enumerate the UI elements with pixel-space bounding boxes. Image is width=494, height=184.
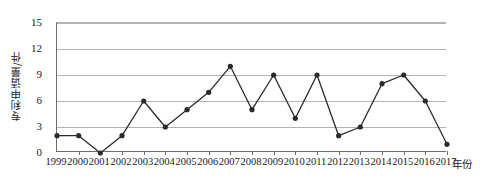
data-point [444, 142, 449, 147]
data-point [163, 124, 168, 129]
y-axis-tick-label: 15 [2, 16, 42, 28]
data-point [401, 72, 406, 77]
data-point [76, 133, 81, 138]
data-point [336, 133, 341, 138]
data-point [249, 107, 254, 112]
data-point [184, 107, 189, 112]
data-point [358, 124, 363, 129]
data-series-line [57, 23, 447, 153]
line-chart: 专利申请量/件 03691215 19992000200120022003200… [0, 0, 494, 184]
y-axis-tick-label: 3 [2, 120, 42, 132]
x-axis-title: 年份 [452, 156, 472, 171]
data-point [54, 133, 59, 138]
data-point [314, 72, 319, 77]
data-point [206, 90, 211, 95]
data-point [423, 98, 428, 103]
data-point [119, 133, 124, 138]
data-point [293, 116, 298, 121]
y-axis-tick-label: 9 [2, 68, 42, 80]
data-point [271, 72, 276, 77]
data-point [379, 81, 384, 86]
x-axis-tick [447, 151, 448, 155]
y-axis-tick-label: 12 [2, 42, 42, 54]
data-point [141, 98, 146, 103]
y-axis-tick-label: 6 [2, 94, 42, 106]
data-point [98, 150, 103, 155]
plot-area [56, 22, 446, 152]
data-point [228, 64, 233, 69]
